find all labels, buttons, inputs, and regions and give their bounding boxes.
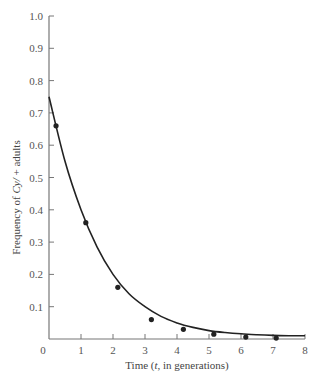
y-tick-label: 0.5 [29, 172, 43, 184]
x-tick-label: 7 [270, 344, 276, 356]
x-tick-label: 1 [78, 344, 84, 356]
data-point [211, 332, 216, 337]
y-tick-label: 0.7 [29, 107, 43, 119]
y-tick-label: 0.3 [29, 236, 43, 248]
y-tick-label: 0.1 [29, 301, 43, 313]
fitted-curve [49, 97, 305, 336]
x-tick-label: 6 [238, 344, 244, 356]
y-axis-label: Frequency of Cy/ + adults [10, 140, 22, 254]
x-tick-label: 8 [302, 344, 308, 356]
y-tick-label: 0.9 [29, 42, 43, 54]
data-point [53, 123, 58, 128]
data-point [115, 285, 120, 290]
chart: 0.10.20.30.40.50.60.70.80.91.0012345678 … [0, 0, 317, 381]
y-tick-label: 0.4 [29, 204, 43, 216]
y-tick-label: 0.8 [29, 75, 43, 87]
data-point [274, 335, 279, 340]
x-tick-label: 5 [206, 344, 212, 356]
x-tick-label: 3 [142, 344, 148, 356]
data-point [243, 334, 248, 339]
data-point [83, 220, 88, 225]
data-point [149, 317, 154, 322]
x-axis-label: Time (t, in generations) [125, 359, 229, 372]
x-tick-label: 2 [110, 344, 116, 356]
x-tick-label: 4 [174, 344, 180, 356]
data-point [181, 327, 186, 332]
fitted-curve-line [49, 97, 305, 336]
x-tick-label: 0 [40, 344, 46, 356]
y-tick-label: 0.2 [29, 268, 43, 280]
data-points [53, 123, 278, 340]
y-tick-label: 1.0 [29, 10, 43, 22]
y-tick-label: 0.6 [29, 139, 43, 151]
